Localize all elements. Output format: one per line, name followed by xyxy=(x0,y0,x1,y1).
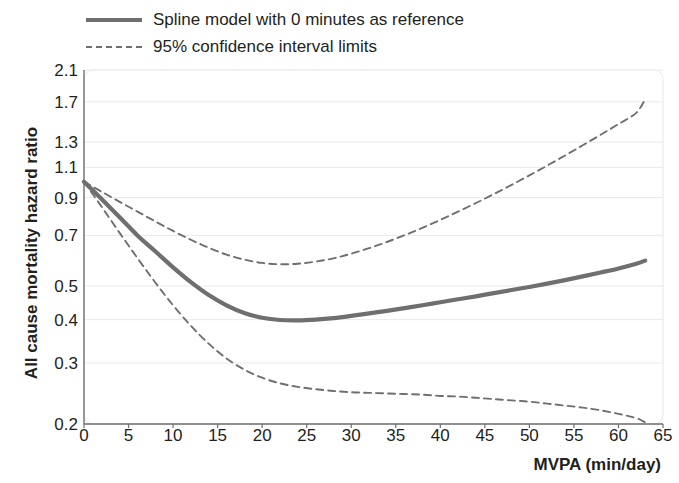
confidence-interval-curve xyxy=(84,182,645,423)
plot-frame xyxy=(84,70,663,424)
confidence-interval-curve xyxy=(84,99,645,264)
data-curves xyxy=(84,99,645,422)
figure-container: Spline model with 0 minutes as reference… xyxy=(0,0,679,483)
gridlines xyxy=(84,70,663,424)
plot-area xyxy=(0,0,679,483)
plot-border xyxy=(84,70,663,424)
axis-lines xyxy=(84,70,663,424)
